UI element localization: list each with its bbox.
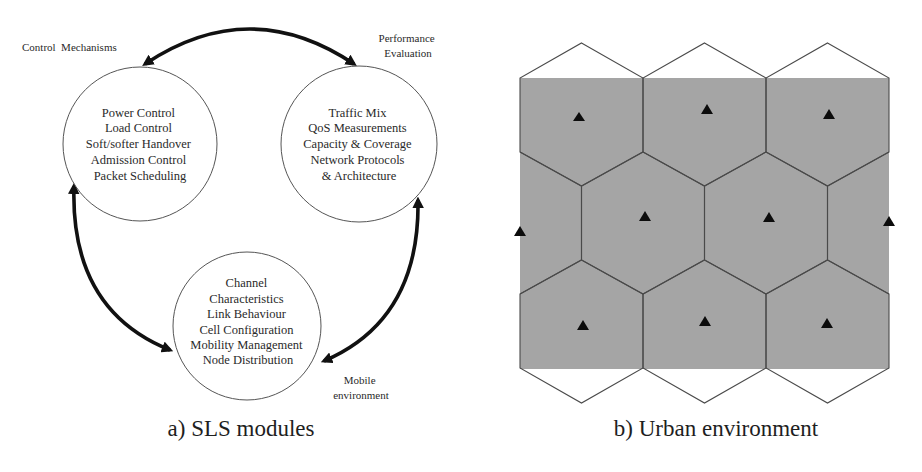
urban-environment-diagram: b) Urban environment <box>514 43 895 441</box>
performance-evaluation-label: Performance Evaluation <box>379 32 438 59</box>
mobile-environment-label: Mobile environment <box>333 374 389 401</box>
arrow-mobile-performance <box>324 200 418 361</box>
caption-a: a) SLS modules <box>168 416 315 441</box>
sls-modules-diagram: Power Control Load Control Soft/softer H… <box>22 29 437 441</box>
arrow-control-performance <box>145 29 354 64</box>
control-mechanisms-label: Control Mechanisms <box>22 41 117 53</box>
control-mechanisms-list: Power Control Load Control Soft/softer H… <box>86 106 194 183</box>
caption-b: b) Urban environment <box>614 416 819 441</box>
